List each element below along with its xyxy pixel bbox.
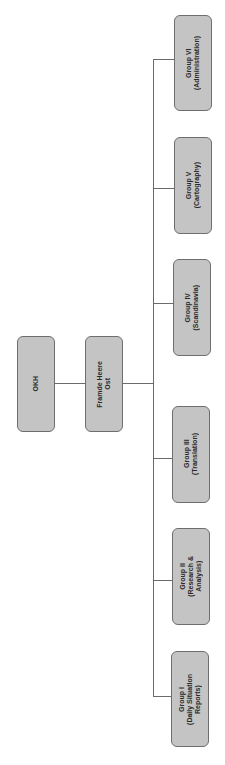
connector-group-iii: [153, 458, 172, 459]
node-group-iv: Group IV (Scandinavia): [173, 259, 211, 356]
node-label: Group I (Daily Situation Reports): [178, 674, 202, 725]
node-label: Framde Heere Ost: [96, 361, 112, 408]
connector-bus: [153, 59, 154, 697]
connector-fho-to-bus: [123, 383, 154, 384]
node-group-vi: Group VI (Administration): [174, 15, 212, 111]
node-label: Group VI (Administration): [185, 36, 201, 90]
node-group-ii: Group II (Research & Analysis): [172, 528, 210, 625]
node-group-v: Group V (Cartography): [174, 137, 212, 234]
node-label: Group V (Cartography): [185, 162, 201, 208]
node-label: OKH: [32, 376, 40, 392]
connector-group-ii: [153, 580, 172, 581]
connector-group-v: [153, 188, 174, 189]
node-group-iii: Group III (Translation): [172, 406, 210, 503]
connector-group-iv: [153, 303, 173, 304]
node-label: Group III (Translation): [183, 433, 199, 475]
connector-okh-to-fho: [54, 383, 85, 384]
node-okh: OKH: [17, 336, 55, 432]
node-label: Group II (Research & Analysis): [179, 556, 203, 597]
node-label: Group IV (Scandinavia): [184, 285, 200, 331]
connector-group-i: [153, 696, 171, 697]
node-group-i: Group I (Daily Situation Reports): [171, 651, 209, 747]
node-framde-heere-ost: Framde Heere Ost: [85, 336, 123, 432]
connector-group-vi: [153, 59, 174, 60]
